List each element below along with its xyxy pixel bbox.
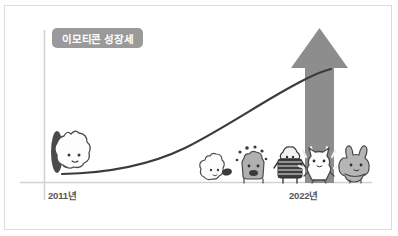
x-axis-start-label: 2011년 xyxy=(48,188,77,202)
title-badge-label: 이모티콘 성장세 xyxy=(62,31,133,46)
emoticon-character-4 xyxy=(274,147,306,183)
emoticon-character-1 xyxy=(51,131,90,173)
infographic-root: 이모티콘 성장세 2011년 2022년 xyxy=(0,0,398,236)
emoticon-character-6 xyxy=(339,146,369,183)
emoticon-character-2 xyxy=(200,153,233,179)
emoticon-character-3 xyxy=(236,145,268,183)
title-badge: 이모티콘 성장세 xyxy=(52,28,143,48)
x-axis-end-label: 2022년 xyxy=(289,188,318,202)
